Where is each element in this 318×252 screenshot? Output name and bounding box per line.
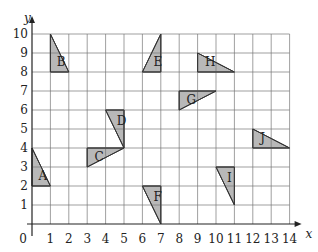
shape-label: B	[57, 55, 66, 69]
y-tick-label: 10	[13, 27, 28, 41]
shape-label: F	[153, 190, 161, 204]
y-tick-label: 3	[20, 160, 28, 174]
x-tick-label: 4	[102, 232, 110, 246]
x-axis-label: x	[306, 227, 313, 241]
x-tick-label: 11	[227, 232, 242, 246]
y-tick-label: 7	[20, 84, 28, 98]
x-tick-label: 6	[139, 232, 147, 246]
y-tick-label: 1	[20, 198, 28, 212]
x-tick-label: 0	[19, 232, 27, 246]
shape-label: E	[153, 55, 162, 69]
coordinate-grid-diagram: ABCDEFGHIJ012345678910111213141234567891…	[0, 0, 318, 252]
shape-label: H	[205, 55, 215, 69]
x-tick-label: 5	[120, 232, 128, 246]
y-tick-label: 8	[20, 65, 28, 79]
x-tick-label: 3	[83, 232, 91, 246]
x-tick-label: 7	[157, 232, 165, 246]
y-axis-label: y	[23, 11, 31, 25]
x-tick-label: 10	[208, 232, 223, 246]
y-tick-label: 5	[20, 122, 28, 136]
shape-label: D	[117, 114, 127, 128]
y-tick-label: 6	[20, 103, 28, 117]
shape-label: C	[95, 150, 104, 164]
shape-label: J	[258, 131, 265, 145]
y-tick-label: 4	[20, 141, 28, 155]
x-tick-label: 14	[282, 232, 298, 246]
shape-label: I	[227, 171, 232, 185]
x-tick-label: 13	[264, 232, 279, 246]
x-tick-label: 8	[175, 232, 183, 246]
x-tick-label: 9	[194, 232, 202, 246]
x-tick-label: 2	[65, 232, 73, 246]
shape-label: A	[37, 169, 47, 183]
x-axis-arrow-icon	[295, 221, 302, 227]
x-tick-label: 12	[245, 232, 260, 246]
y-tick-label: 2	[20, 179, 28, 193]
shape-label: G	[187, 93, 197, 107]
x-tick-label: 1	[47, 232, 55, 246]
y-tick-label: 9	[20, 46, 28, 60]
